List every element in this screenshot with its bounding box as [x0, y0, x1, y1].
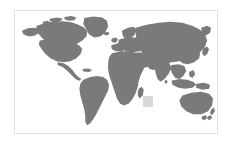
world-map-widget: [0, 0, 232, 144]
world-map-graphic[interactable]: [15, 11, 217, 133]
indian-ocean-region-highlight[interactable]: [143, 96, 153, 107]
map-frame[interactable]: [14, 10, 218, 134]
